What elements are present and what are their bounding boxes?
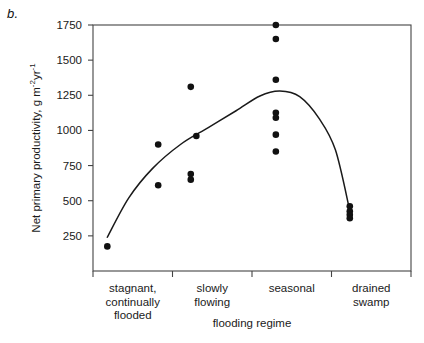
data-point [273,77,280,84]
y-tick-label: 250 [36,230,82,242]
y-tick-label: 1000 [36,124,82,136]
data-point [273,36,280,43]
data-point [273,148,280,155]
data-point [104,243,111,250]
data-point [273,131,280,138]
data-point [273,114,280,121]
data-point [187,171,194,178]
data-point [187,84,194,91]
data-point [155,141,162,148]
y-axis-ticks [88,25,93,236]
fit-curve [107,91,349,237]
data-point [187,176,194,183]
plot-frame [93,25,411,271]
y-tick-label: 750 [36,160,82,172]
y-tick-label: 1500 [36,54,82,66]
x-axis-ticks [93,271,411,277]
scatter-chart: Net primary productivity, g m-2yr-1 floo… [0,0,424,343]
x-category-label: drainedswamp [316,282,424,309]
y-tick-label: 1750 [36,19,82,31]
data-point [193,133,200,140]
data-point [273,22,280,29]
data-points [104,22,353,250]
y-tick-label: 500 [36,195,82,207]
y-tick-label: 1250 [36,89,82,101]
data-point [346,215,353,222]
data-point [155,182,162,189]
